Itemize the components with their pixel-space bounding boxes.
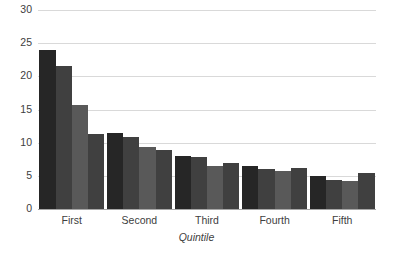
- bar: [242, 166, 258, 209]
- bar: [139, 147, 155, 209]
- bar: [326, 180, 342, 209]
- y-axis-tick-label: 15: [20, 104, 32, 115]
- x-axis-line: [38, 209, 376, 210]
- bar: [175, 156, 191, 209]
- y-axis-tick-label: 25: [20, 37, 32, 48]
- bar: [88, 134, 104, 209]
- bar: [123, 137, 139, 209]
- bar: [275, 171, 291, 209]
- x-axis-category-label: First: [38, 213, 106, 227]
- y-axis-tick-label: 20: [20, 70, 32, 81]
- bar: [310, 176, 326, 209]
- x-axis-category-label: Fifth: [308, 213, 376, 227]
- bar: [56, 66, 72, 209]
- bar: [191, 157, 207, 209]
- y-axis-tick-label: 10: [20, 137, 32, 148]
- bar: [258, 169, 274, 209]
- bar: [156, 150, 172, 209]
- bar-chart: 051015202530 FirstSecondThirdFourthFifth…: [0, 0, 393, 268]
- bar: [72, 105, 88, 209]
- y-axis-tick-label: 30: [20, 4, 32, 15]
- bars-layer: [38, 10, 376, 209]
- x-axis-category-label: Second: [106, 213, 174, 227]
- bar: [207, 166, 223, 209]
- plot-area: [38, 10, 376, 209]
- bar: [342, 181, 358, 209]
- bar: [291, 168, 307, 209]
- bar: [107, 133, 123, 209]
- y-axis-tick-labels: 051015202530: [0, 0, 32, 268]
- bar: [223, 163, 239, 209]
- y-axis-tick-label: 0: [26, 203, 32, 214]
- x-axis-category-label: Third: [173, 213, 241, 227]
- x-axis-title: Quintile: [0, 231, 393, 243]
- x-axis-category-labels: FirstSecondThirdFourthFifth: [38, 213, 376, 233]
- bar: [358, 173, 374, 209]
- x-axis-category-label: Fourth: [241, 213, 309, 227]
- bar: [39, 50, 55, 209]
- y-axis-tick-label: 5: [26, 170, 32, 181]
